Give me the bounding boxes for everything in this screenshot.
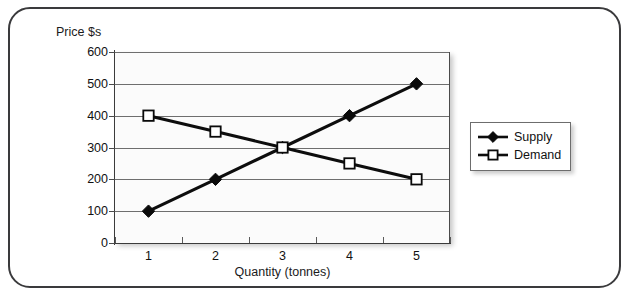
x-axis-tick-label: 2 [212, 249, 219, 263]
legend-label: Supply [514, 129, 552, 145]
legend-item-demand: Demand [477, 146, 561, 164]
y-axis-tick-mark [109, 211, 115, 212]
y-axis-tick-label: 400 [48, 109, 108, 123]
x-axis-tick-label: 4 [346, 249, 353, 263]
data-point-demand [277, 142, 287, 152]
y-axis-tick-label: 600 [48, 45, 108, 59]
x-axis-title: Quantity (tonnes) [115, 265, 450, 279]
y-axis-tick-mark [109, 116, 115, 117]
y-axis-tick-label: 300 [48, 141, 108, 155]
data-point-supply [343, 109, 355, 121]
x-axis-tick-mark [383, 237, 384, 243]
data-point-supply [410, 78, 422, 90]
x-axis-tick-mark [182, 237, 183, 243]
data-point-supply [142, 205, 154, 217]
x-axis-tick-mark [115, 237, 116, 243]
y-axis-title: Price $s [56, 25, 101, 39]
chart-legend: SupplyDemand [470, 122, 571, 171]
data-point-supply [209, 173, 221, 185]
hollow-square-icon [477, 147, 509, 163]
plot-area [115, 52, 450, 243]
series-group [115, 52, 450, 243]
x-axis-tick-mark [249, 237, 250, 243]
x-axis-tick-label: 1 [145, 249, 152, 263]
data-point-demand [344, 158, 354, 168]
x-axis-line [114, 243, 451, 244]
y-axis-tick-mark [109, 243, 115, 244]
y-axis-tick-mark [109, 84, 115, 85]
y-axis-tick-mark [109, 148, 115, 149]
x-axis-tick-label: 5 [413, 249, 420, 263]
data-point-demand [143, 110, 153, 120]
x-axis-tick-mark [316, 237, 317, 243]
legend-item-supply: Supply [477, 128, 561, 146]
y-axis-tick-label: 500 [48, 77, 108, 91]
y-axis-tick-mark [109, 179, 115, 180]
filled-diamond-icon [477, 129, 509, 145]
y-axis-tick-mark [109, 52, 115, 53]
y-axis-tick-label: 100 [48, 204, 108, 218]
legend-label: Demand [514, 147, 561, 163]
x-axis-tick-label: 3 [279, 249, 286, 263]
data-point-demand [210, 126, 220, 136]
data-point-demand [411, 174, 421, 184]
y-axis-tick-label: 200 [48, 172, 108, 186]
x-axis-tick-mark [450, 237, 451, 243]
y-axis-tick-label: 0 [48, 236, 108, 250]
supply-demand-chart: Price $s 0100200300400500600 12345 Quant… [0, 0, 631, 297]
